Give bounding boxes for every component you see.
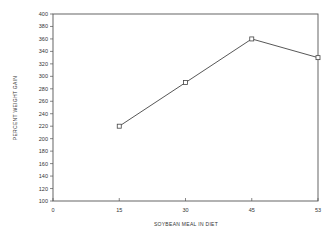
x-tick-label: 53 xyxy=(315,207,321,213)
y-tick-label: 260 xyxy=(39,98,48,104)
x-axis-title: SOYBEAN MEAL IN DIET xyxy=(154,221,218,227)
y-tick-label: 220 xyxy=(39,123,48,129)
y-axis: 1001201401601802002202402602803003203403… xyxy=(39,11,53,204)
y-tick-label: 400 xyxy=(39,11,48,17)
y-tick-label: 360 xyxy=(39,36,48,42)
y-tick-label: 200 xyxy=(39,136,48,142)
y-tick-label: 340 xyxy=(39,48,48,54)
x-tick-label: 30 xyxy=(182,207,188,213)
y-tick-label: 320 xyxy=(39,61,48,67)
y-tick-label: 140 xyxy=(39,173,48,179)
y-tick-label: 300 xyxy=(39,73,48,79)
x-tick-label: 15 xyxy=(116,207,122,213)
plot-frame xyxy=(53,14,318,201)
x-tick-label: 45 xyxy=(249,207,255,213)
x-axis: 015304553 xyxy=(51,198,321,213)
data-point-marker xyxy=(250,37,254,41)
y-axis-title: PERCENT WEIGHT GAIN xyxy=(12,76,18,140)
y-tick-label: 160 xyxy=(39,161,48,167)
y-tick-label: 120 xyxy=(39,186,48,192)
data-point-marker xyxy=(184,81,188,85)
y-tick-label: 100 xyxy=(39,198,48,204)
y-tick-label: 240 xyxy=(39,111,48,117)
data-point-marker xyxy=(117,124,121,128)
data-point-marker xyxy=(316,56,320,60)
y-tick-label: 380 xyxy=(39,23,48,29)
y-tick-label: 180 xyxy=(39,148,48,154)
x-tick-label: 0 xyxy=(51,207,54,213)
y-tick-label: 280 xyxy=(39,86,48,92)
data-series xyxy=(117,37,320,128)
data-line xyxy=(119,39,318,126)
plot-border xyxy=(53,14,318,201)
line-chart: 1001201401601802002202402602803003203403… xyxy=(0,0,334,236)
